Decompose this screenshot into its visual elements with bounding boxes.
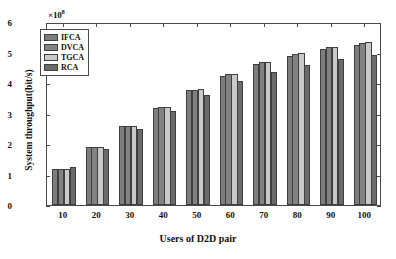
bar <box>170 111 176 205</box>
y-axis-exponent: ×108 <box>48 8 65 20</box>
bar <box>70 167 76 205</box>
legend: IFCADVCATGCARCA <box>40 29 89 76</box>
y-axis-tick-label: 0 <box>0 201 12 211</box>
y-axis-exponent-power: 8 <box>62 8 65 15</box>
y-axis-tick-label: 2 <box>0 140 12 150</box>
y-axis-exponent-base: ×10 <box>48 10 62 20</box>
y-axis-tick-label: 3 <box>0 110 12 120</box>
legend-label: IFCA <box>61 34 81 42</box>
legend-item-tgca[interactable]: TGCA <box>44 53 84 62</box>
legend-swatch-icon <box>44 64 58 71</box>
y-axis-tick-mark-right <box>377 206 381 207</box>
y-axis-title: System throughput(bit/s) <box>24 35 34 205</box>
legend-item-rca[interactable]: RCA <box>44 63 84 72</box>
legend-swatch-icon <box>44 44 58 51</box>
y-axis-tick-label: 6 <box>0 18 12 28</box>
x-axis-tick-label: 100 <box>344 210 384 220</box>
y-axis-tick-label: 1 <box>0 171 12 181</box>
bar <box>371 55 377 205</box>
bar <box>237 81 243 205</box>
bar <box>338 59 344 205</box>
bar <box>271 72 277 205</box>
y-axis-tick-label: 4 <box>0 79 12 89</box>
legend-label: TGCA <box>61 54 84 62</box>
bar <box>103 149 109 205</box>
legend-item-dvca[interactable]: DVCA <box>44 43 84 52</box>
x-axis-title: Users of D2D pair <box>0 233 396 244</box>
legend-label: RCA <box>61 64 78 72</box>
bar <box>137 129 143 205</box>
bar-series-container <box>47 24 380 205</box>
figure: ×108 System throughput(bit/s) 0123456 10… <box>0 0 396 259</box>
legend-label: DVCA <box>61 44 84 52</box>
y-axis-tick-label: 5 <box>0 49 12 59</box>
legend-item-ifca[interactable]: IFCA <box>44 33 84 42</box>
bar <box>304 65 310 205</box>
bar <box>204 95 210 205</box>
legend-swatch-icon <box>44 54 58 61</box>
legend-swatch-icon <box>44 34 58 41</box>
y-axis-tick-mark <box>46 206 50 207</box>
